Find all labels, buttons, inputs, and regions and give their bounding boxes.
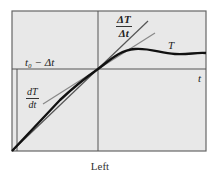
- curve-T-label: T: [168, 40, 174, 51]
- t-axis-label: t: [198, 73, 201, 84]
- secant-denominator: Δt: [116, 27, 132, 39]
- tangent-denominator: dt: [26, 99, 39, 110]
- t0-minus-dt-label: t₀ − Δt: [25, 57, 54, 68]
- secant-slope-label: ΔT Δt: [116, 14, 132, 39]
- secant-numerator: ΔT: [116, 14, 132, 27]
- tangent-numerator: dT: [26, 87, 39, 99]
- figure-caption: Left: [0, 160, 200, 172]
- tangent-slope-label: dT dt: [26, 87, 39, 110]
- plot-panel: [12, 11, 206, 151]
- derivative-diagram: t₀ − Δt t T ΔT Δt dT dt Left: [0, 0, 218, 175]
